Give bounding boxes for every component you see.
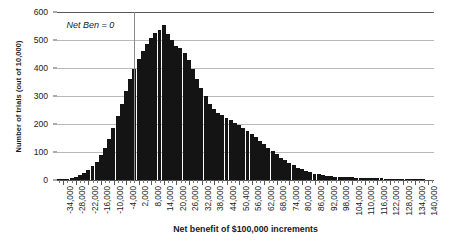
x-axis-minor-tick [72,180,73,183]
y-axis-tick-mark [53,40,57,41]
x-axis-tick-label: -34,000 [67,186,75,214]
x-axis-minor-tick [109,180,110,183]
histogram-chart: Number of trials (out of 10,000) Net Ben… [0,0,457,241]
x-axis-tick-label: 104,000 [356,186,364,216]
x-axis-minor-tick [84,180,85,183]
x-axis-minor-tick [222,180,223,183]
x-axis-tick-label: 8,000 [155,186,163,207]
x-axis-tick-label: 80,000 [305,186,313,211]
x-axis-major-tick [377,180,378,185]
x-axis-tick-label: 44,000 [230,186,238,211]
x-axis-minor-tick [181,180,182,183]
x-axis-minor-tick [122,180,123,183]
x-axis-major-tick [63,180,64,185]
x-axis-major-tick [277,180,278,185]
x-axis-major-tick [390,180,391,185]
x-axis-tick-label: 122,000 [393,186,401,216]
y-axis-tick-mark [53,12,57,13]
x-axis-minor-tick [373,180,374,183]
x-axis-major-tick [302,180,303,185]
x-axis-tick-label: 92,000 [331,186,339,211]
x-axis-major-tick [126,180,127,185]
x-axis-minor-tick [231,180,232,183]
x-axis-tick-label: 98,000 [343,186,351,211]
x-axis-minor-tick [168,180,169,183]
x-axis-minor-tick [130,180,131,183]
x-axis-minor-tick [80,180,81,183]
x-axis-minor-tick [273,180,274,183]
x-axis-minor-tick [298,180,299,183]
x-axis-tick-label: 134,000 [419,186,427,216]
x-axis-major-tick [176,180,177,185]
x-axis-minor-tick [369,180,370,183]
x-axis-major-tick [315,180,316,185]
y-axis-tick-label: 600 [0,8,48,17]
y-axis-tick-label: 100 [0,148,48,157]
x-axis-tick-label: 50,400 [243,186,251,211]
x-axis-minor-tick [193,180,194,183]
x-axis-tick-label: 2,000 [142,186,150,207]
x-axis-minor-tick [172,180,173,183]
x-axis-minor-tick [331,180,332,183]
x-axis-major-tick [428,180,429,185]
x-axis-major-tick [214,180,215,185]
x-axis-tick-label: -22,000 [92,186,100,214]
x-axis-minor-tick [386,180,387,183]
x-axis-minor-tick [419,180,420,183]
x-axis-minor-tick [407,180,408,183]
x-axis-tick-labels: -34,000-28,000-22,000-16,000-10,000-4,00… [57,186,434,226]
x-axis-minor-tick [344,180,345,183]
x-axis-minor-tick [357,180,358,183]
x-axis-major-tick [352,180,353,185]
x-axis-major-tick [227,180,228,185]
x-axis-minor-tick [218,180,219,183]
y-axis-tick-label: 400 [0,64,48,73]
x-axis-minor-tick [256,180,257,183]
zero-annotation-label: Net Ben = 0 [66,20,114,30]
x-axis-minor-tick [59,180,60,183]
x-axis-minor-tick [243,180,244,183]
x-axis-tick-label: -28,000 [79,186,87,214]
x-axis-minor-tick [160,180,161,183]
zero-reference-line [134,12,135,180]
x-axis-major-tick [239,180,240,185]
y-axis-tick-label: 200 [0,120,48,129]
x-axis-tick-label: 68,000 [280,186,288,211]
x-axis-minor-tick [210,180,211,183]
x-axis-tick-label: 62,000 [268,186,276,211]
x-axis-minor-tick [118,180,119,183]
x-axis-major-tick [252,180,253,185]
x-axis-minor-tick [206,180,207,183]
x-axis-major-tick [189,180,190,185]
y-axis-tick-mark [53,68,57,69]
x-axis-minor-tick [336,180,337,183]
x-axis-minor-tick [248,180,249,183]
x-axis-minor-tick [294,180,295,183]
x-axis-tick-label: -4,000 [130,186,138,209]
x-axis-minor-tick [93,180,94,183]
x-axis-minor-tick [269,180,270,183]
x-axis-major-tick [139,180,140,185]
x-axis-minor-tick [97,180,98,183]
x-axis-minor-tick [197,180,198,183]
x-axis-minor-tick [105,180,106,183]
x-axis-title: Net benefit of $100,000 increments [57,224,434,234]
x-axis-major-tick [151,180,152,185]
x-axis-minor-tick [424,180,425,183]
x-axis-major-tick [365,180,366,185]
y-axis-tick-mark [53,152,57,153]
x-axis-minor-tick [281,180,282,183]
x-axis-tick-label: 38,000 [217,186,225,211]
x-axis-major-tick [415,180,416,185]
y-axis-tick-label: 500 [0,36,48,45]
x-axis-minor-tick [147,180,148,183]
x-axis-minor-tick [185,180,186,183]
y-axis-tick-label: 300 [0,92,48,101]
x-axis-minor-tick [306,180,307,183]
x-axis-minor-tick [319,180,320,183]
x-axis-tick-label: 14,000 [167,186,175,211]
x-axis-major-tick [327,180,328,185]
x-axis-minor-tick [394,180,395,183]
x-axis-minor-tick [285,180,286,183]
x-axis-major-tick [101,180,102,185]
